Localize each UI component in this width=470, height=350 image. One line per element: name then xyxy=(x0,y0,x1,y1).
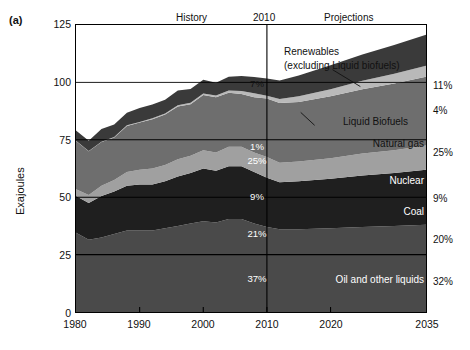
x-tick-2020: 2020 xyxy=(319,318,342,330)
y-axis-title: Exajoules xyxy=(14,167,26,215)
y-tick-125: 125 xyxy=(29,18,71,30)
y-axis-tick-labels: 0255075100125 xyxy=(26,24,71,313)
series-label-oil: Oil and other liquids xyxy=(336,274,424,285)
share-label-2010-3: 9% xyxy=(250,191,264,202)
y-tick-100: 100 xyxy=(29,76,71,88)
projections-header: Projections xyxy=(324,12,373,23)
share-label-2035-2: 25% xyxy=(433,147,453,158)
x-axis-tick-labels: 198019902000201020202035 xyxy=(0,318,470,338)
x-tick-2035: 2035 xyxy=(415,318,438,330)
series-label-nuclear: Nuclear xyxy=(390,175,424,186)
x-tick-1980: 1980 xyxy=(63,318,86,330)
panel-letter: (a) xyxy=(9,14,22,26)
x-tick-2000: 2000 xyxy=(191,318,214,330)
x-tick-1990: 1990 xyxy=(127,318,150,330)
y-tick-50: 50 xyxy=(29,191,71,203)
x-tick-2010: 2010 xyxy=(255,318,278,330)
share-label-2010-2: 25% xyxy=(247,155,266,166)
y-tick-75: 75 xyxy=(29,134,71,146)
series-label-liquid-biofuels: Liquid Biofuels xyxy=(343,116,408,127)
share-label-2035-3: 9% xyxy=(433,193,447,204)
series-label-natural-gas: Natural gas xyxy=(373,138,424,149)
series-label-renewables-line1: Renewables xyxy=(284,46,339,57)
series-label-coal: Coal xyxy=(403,206,424,217)
y-tick-25: 25 xyxy=(29,249,71,261)
figure-panel: (a) Source: U.S. Energy Information Admi… xyxy=(0,0,470,350)
share-label-2010-5: 37% xyxy=(247,273,266,284)
share-label-2010-1: 1% xyxy=(250,141,264,152)
series-label-renewables-line2: (excluding Liquid biofuels) xyxy=(284,60,400,71)
share-label-2010-4: 21% xyxy=(247,228,266,239)
share-label-2010-0: 7% xyxy=(250,78,264,89)
divider-year-header: 2010 xyxy=(253,12,275,23)
history-header: History xyxy=(176,12,207,23)
share-label-2035-1: 4% xyxy=(433,105,447,116)
share-label-2035-5: 32% xyxy=(433,276,453,287)
share-label-2035-0: 11% xyxy=(433,80,452,91)
share-label-2035-4: 20% xyxy=(433,234,453,245)
